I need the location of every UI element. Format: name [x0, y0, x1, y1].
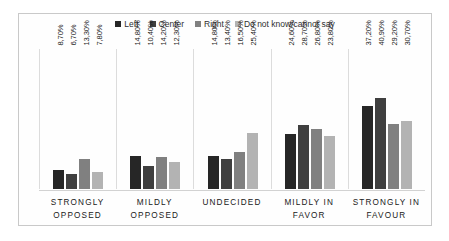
bar[interactable] — [362, 106, 373, 189]
bar-value-label: 26,80% — [314, 21, 322, 46]
bar[interactable] — [324, 136, 335, 189]
legend-swatch-icon — [195, 21, 201, 27]
bar[interactable] — [221, 159, 232, 189]
bar-value-label: 14,20% — [160, 21, 168, 46]
category-label-line2: FAVOR — [271, 210, 348, 223]
bar-value-label: 14,80% — [134, 21, 142, 46]
bar-column[interactable]: 14,20% — [156, 49, 167, 189]
bar-column[interactable]: 13,30% — [79, 49, 90, 189]
bar-column[interactable]: 24,60% — [285, 49, 296, 189]
category-label: MILDLY INFAVOR — [271, 191, 348, 237]
bar-column[interactable]: 12,30% — [169, 49, 180, 189]
category-label-line2: OPPOSED — [39, 210, 116, 223]
category-label-line2: FAVOUR — [348, 210, 425, 223]
category-label-line1: MILDLY — [116, 197, 193, 210]
bar[interactable] — [298, 125, 309, 189]
bar-column[interactable]: 6,70% — [66, 49, 77, 189]
category-label-line1: MILDLY IN — [271, 197, 348, 210]
bar[interactable] — [79, 159, 90, 189]
bar[interactable] — [169, 162, 180, 189]
category-label-line1: UNDECIDED — [193, 197, 270, 210]
bar[interactable] — [66, 174, 77, 189]
category-label: MILDLYOPPOSED — [116, 191, 193, 237]
bar[interactable] — [388, 124, 399, 189]
bar-group: 37,20%40,90%29,20%30,70% — [349, 49, 425, 189]
bar-column[interactable]: 8,70% — [53, 49, 64, 189]
bar[interactable] — [247, 133, 258, 189]
chart-frame: LeftCenterRightDo not know/cannot say 8,… — [18, 13, 432, 226]
bar-column[interactable]: 10,40% — [143, 49, 154, 189]
bar-value-label: 28,70% — [301, 21, 309, 46]
bar-column[interactable]: 16,50% — [234, 49, 245, 189]
bar-value-label: 10,40% — [147, 21, 155, 46]
bar-column[interactable]: 37,20% — [362, 49, 373, 189]
bar-column[interactable]: 14,80% — [208, 49, 219, 189]
bar-value-label: 13,30% — [83, 21, 91, 46]
category-label-line1: STRONGLY — [39, 197, 116, 210]
bar-group: 14,80%10,40%14,20%12,30% — [117, 49, 194, 189]
plot-area: 8,70%6,70%13,30%7,80%14,80%10,40%14,20%1… — [39, 49, 425, 189]
bar-column[interactable]: 23,80% — [324, 49, 335, 189]
x-axis-category-labels: STRONGLYOPPOSEDMILDLYOPPOSEDUNDECIDEDMIL… — [39, 190, 425, 237]
bar-group: 8,70%6,70%13,30%7,80% — [39, 49, 117, 189]
bar-value-label: 23,80% — [327, 21, 335, 46]
bar[interactable] — [143, 166, 154, 189]
bar[interactable] — [401, 121, 412, 189]
category-label: STRONGLY INFAVOUR — [348, 191, 425, 237]
bar[interactable] — [53, 170, 64, 189]
category-label: UNDECIDED — [193, 191, 270, 237]
bar-column[interactable]: 7,80% — [92, 49, 103, 189]
bar[interactable] — [285, 134, 296, 189]
bar[interactable] — [208, 156, 219, 189]
bar-value-label: 40,90% — [378, 21, 386, 46]
bar[interactable] — [156, 157, 167, 189]
bar-group: 14,80%13,40%16,50%25,40% — [194, 49, 271, 189]
bar[interactable] — [375, 98, 386, 189]
bar-column[interactable]: 30,70% — [401, 49, 412, 189]
bar-column[interactable]: 40,90% — [375, 49, 386, 189]
category-label: STRONGLYOPPOSED — [39, 191, 116, 237]
category-label-line1: STRONGLY IN — [348, 197, 425, 210]
bar-value-label: 24,60% — [288, 21, 296, 46]
bar-column[interactable]: 26,80% — [311, 49, 322, 189]
bar[interactable] — [311, 129, 322, 189]
bar-value-label: 6,70% — [70, 25, 78, 46]
bar-value-label: 29,20% — [391, 21, 399, 46]
bar-value-label: 14,80% — [211, 21, 219, 46]
bar-value-label: 13,40% — [224, 21, 232, 46]
bar-value-label: 12,30% — [173, 21, 181, 46]
bar[interactable] — [130, 156, 141, 189]
bar-column[interactable]: 25,40% — [247, 49, 258, 189]
bar-column[interactable]: 14,80% — [130, 49, 141, 189]
bar-value-label: 8,70% — [57, 25, 65, 46]
legend-swatch-icon — [115, 21, 121, 27]
bar-column[interactable]: 28,70% — [298, 49, 309, 189]
bar-value-label: 37,20% — [365, 21, 373, 46]
bar-value-label: 25,40% — [250, 21, 258, 46]
bar-value-label: 30,70% — [404, 21, 412, 46]
category-label-line2: OPPOSED — [116, 210, 193, 223]
bar-column[interactable]: 13,40% — [221, 49, 232, 189]
bar-value-label: 16,50% — [237, 21, 245, 46]
bar-group: 24,60%28,70%26,80%23,80% — [272, 49, 349, 189]
bar-column[interactable]: 29,20% — [388, 49, 399, 189]
bar-value-label: 7,80% — [96, 25, 104, 46]
bar[interactable] — [92, 172, 103, 189]
bar[interactable] — [234, 152, 245, 189]
